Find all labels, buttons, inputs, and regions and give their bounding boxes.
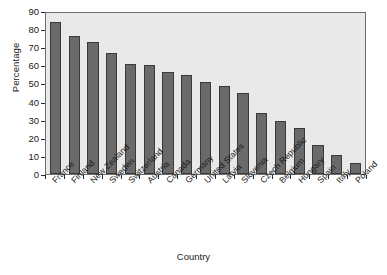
y-tick-label: 20 — [17, 134, 39, 144]
bar — [69, 36, 80, 174]
bar-cell — [327, 13, 346, 174]
bar — [237, 93, 248, 175]
y-tick-label: 90 — [17, 7, 39, 17]
bar-cell — [252, 13, 271, 174]
y-tick-label: 0 — [17, 170, 39, 180]
bar-cell — [346, 13, 365, 174]
bar-cell — [84, 13, 103, 174]
bar-cell — [46, 13, 65, 174]
bar — [87, 42, 98, 174]
y-tick-label: 40 — [17, 98, 39, 108]
bar-cell — [65, 13, 84, 174]
y-tick-label: 70 — [17, 43, 39, 53]
y-tick-label: 80 — [17, 25, 39, 35]
y-tick-label: 10 — [17, 152, 39, 162]
x-axis-title: Country — [0, 251, 387, 262]
y-tick-label: 30 — [17, 116, 39, 126]
y-tick-label: 50 — [17, 80, 39, 90]
bar-cell — [309, 13, 328, 174]
y-tick-label: 60 — [17, 62, 39, 72]
bar-chart: Percentage 0102030405060708090 FranceFin… — [0, 0, 387, 275]
bar-series — [46, 13, 365, 174]
bar-cell — [177, 13, 196, 174]
bar-cell — [196, 13, 215, 174]
y-axis-tick-labels: 0102030405060708090 — [17, 12, 39, 175]
plot-area — [45, 12, 366, 175]
x-axis-tick-labels: FranceFinlandNew ZealandSwedenSwitzerlan… — [45, 178, 366, 248]
bar — [50, 22, 61, 174]
